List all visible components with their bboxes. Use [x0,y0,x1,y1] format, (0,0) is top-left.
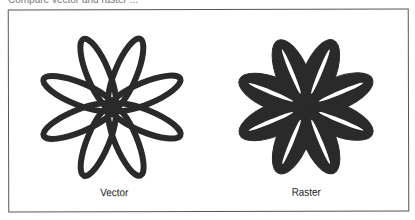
vector-label: Vector [20,186,209,198]
figure-caption: Compare vector and raster ... [8,0,138,5]
raster-label: Raster [212,185,401,197]
raster-flower-icon [231,32,381,182]
vector-flower-icon [37,32,187,182]
figure-frame: Vector [8,8,410,212]
raster-panel: Raster [209,9,410,213]
vector-panel: Vector [9,10,210,214]
